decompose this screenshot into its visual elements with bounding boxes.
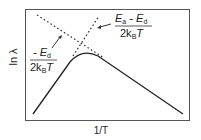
diagram-canvas: Ea - Ed 2kBT - Ed 2kBT 1/T ln λ (0, 0, 201, 140)
arrow-right-pointer (100, 24, 111, 27)
arrow-left-pointer (52, 37, 60, 48)
annotation-right-numerator: Ea - Ed (115, 12, 147, 25)
annotation-right-denominator: 2kBT (120, 27, 144, 40)
asymptote-right-dotted (73, 16, 99, 56)
ln-lambda-curve (33, 53, 183, 114)
arrow-right-head (97, 25, 101, 29)
annotation-left-denominator: 2kBT (30, 61, 54, 74)
annotation-left-numerator: - Ed (33, 46, 51, 59)
x-axis-label: 1/T (94, 125, 108, 136)
y-axis-label: ln λ (7, 48, 19, 66)
